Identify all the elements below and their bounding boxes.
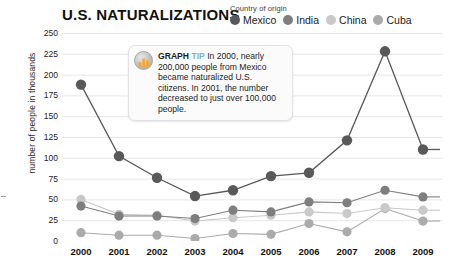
legend-item-china[interactable]: China xyxy=(326,14,366,26)
legend-label: India xyxy=(296,14,319,26)
data-point[interactable] xyxy=(342,227,351,236)
x-tick-label: 2002 xyxy=(146,246,167,257)
legend-marker-icon xyxy=(326,15,336,25)
tooltip-text: GRAPH TIP In 2000, nearly 200,000 people… xyxy=(158,51,285,115)
data-point[interactable] xyxy=(418,144,428,154)
y-tick-label: 175 xyxy=(44,90,58,100)
y-tick-label: 100 xyxy=(44,153,58,163)
y-tick-label: 25 xyxy=(49,215,58,225)
data-point[interactable] xyxy=(76,228,85,237)
data-point[interactable] xyxy=(190,214,199,223)
legend-item-india[interactable]: India xyxy=(283,14,319,26)
data-point[interactable] xyxy=(304,219,313,228)
legend-label: Mexico xyxy=(243,14,276,26)
data-point[interactable] xyxy=(114,231,123,240)
y-tick-label: 225 xyxy=(44,49,58,59)
x-tick-label: 2009 xyxy=(412,246,433,257)
data-point[interactable] xyxy=(266,230,275,239)
page-title: U.S. NATURALIZATIONS xyxy=(62,6,240,23)
data-point[interactable] xyxy=(152,231,161,240)
data-point[interactable] xyxy=(76,201,85,210)
graph-tip-tooltip: GRAPH TIP In 2000, nearly 200,000 people… xyxy=(128,45,293,121)
legend-title: Country of origin xyxy=(230,4,448,13)
series-line xyxy=(81,199,423,221)
chart-page: U.S. NATURALIZATIONS Country of origin M… xyxy=(0,0,450,271)
x-tick-label: 2008 xyxy=(374,246,395,257)
x-tick-label: 2007 xyxy=(336,246,357,257)
legend-marker-icon xyxy=(373,15,383,25)
data-point[interactable] xyxy=(304,168,314,178)
y-tick-label: 125 xyxy=(44,132,58,142)
data-point[interactable] xyxy=(190,191,200,201)
data-point[interactable] xyxy=(114,151,124,161)
x-tick-label: 2006 xyxy=(298,246,319,257)
data-point[interactable] xyxy=(418,206,427,215)
legend-item-cuba[interactable]: Cuba xyxy=(373,14,411,26)
y-tick-label: 0 xyxy=(53,236,58,246)
data-point[interactable] xyxy=(152,211,161,220)
data-point[interactable] xyxy=(228,185,238,195)
data-point[interactable] xyxy=(228,206,237,215)
data-point[interactable] xyxy=(342,198,351,207)
data-point[interactable] xyxy=(380,186,389,195)
data-point[interactable] xyxy=(418,192,427,201)
legend-items: MexicoIndiaChinaCuba xyxy=(230,14,448,26)
legend: Country of origin MexicoIndiaChinaCuba xyxy=(228,4,448,26)
tooltip-kicker: GRAPH xyxy=(158,51,189,61)
data-point[interactable] xyxy=(342,135,352,145)
series-line xyxy=(81,209,423,239)
axis-edge-mark xyxy=(1,196,6,197)
y-tick-label: 75 xyxy=(49,174,58,184)
data-point[interactable] xyxy=(228,229,237,238)
data-point[interactable] xyxy=(190,234,199,241)
data-point[interactable] xyxy=(76,79,86,89)
data-point[interactable] xyxy=(342,209,351,218)
y-tick-label: 250 xyxy=(44,28,58,38)
legend-marker-icon xyxy=(230,15,240,25)
data-point[interactable] xyxy=(266,207,275,216)
data-point[interactable] xyxy=(152,173,162,183)
x-tick-label: 2004 xyxy=(222,246,243,257)
data-point[interactable] xyxy=(418,216,427,225)
data-point[interactable] xyxy=(266,171,276,181)
y-axis-ticks: 2502252001751501251007550250 xyxy=(26,33,58,241)
bar-chart-icon xyxy=(134,51,153,70)
legend-label: China xyxy=(339,14,366,26)
x-tick-label: 2000 xyxy=(70,246,91,257)
data-point[interactable] xyxy=(380,46,390,56)
data-point[interactable] xyxy=(304,197,313,206)
x-tick-label: 2005 xyxy=(260,246,281,257)
legend-label: Cuba xyxy=(386,14,411,26)
tooltip-kicker-tip: TIP xyxy=(191,51,204,61)
x-axis-ticks: 2000200120022003200420052006200720082009 xyxy=(62,246,442,262)
y-tick-label: 150 xyxy=(44,111,58,121)
x-tick-label: 2003 xyxy=(184,246,205,257)
y-tick-label: 50 xyxy=(49,194,58,204)
legend-marker-icon xyxy=(283,15,293,25)
y-tick-label: 200 xyxy=(44,70,58,80)
legend-item-mexico[interactable]: Mexico xyxy=(230,14,276,26)
x-tick-label: 2001 xyxy=(108,246,129,257)
data-point[interactable] xyxy=(304,207,313,216)
data-point[interactable] xyxy=(380,203,389,212)
data-point[interactable] xyxy=(114,211,123,220)
